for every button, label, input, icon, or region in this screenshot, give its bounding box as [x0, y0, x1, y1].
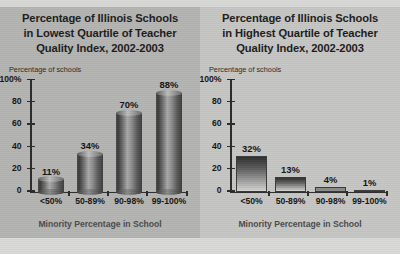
bar-right-lt50[interactable]: [236, 156, 267, 192]
chart-title-left-line3: Quality Index, 2002-2003: [3, 41, 197, 56]
y-tick-label-60-left: 60: [12, 118, 22, 128]
bar-value-left-90-98: 70%: [120, 99, 139, 110]
plot-area-left: 100% 80 60 40 20 0: [30, 79, 188, 193]
y-tick-label-80-left: 80: [12, 96, 22, 106]
bar-right-50-89[interactable]: [275, 177, 306, 192]
bar-slot-left-2[interactable]: 34% 50-89%: [77, 154, 103, 192]
bar-slot-right-4[interactable]: 1% 99-100%: [354, 190, 385, 191]
bar-left-90-98[interactable]: [116, 113, 142, 191]
bar-slot-right-2[interactable]: 13% 50-89%: [275, 177, 306, 192]
plot-area-right: 100% 80 60 40 20 0: [230, 79, 388, 193]
chart-title-left-line2: in Lowest Quartile of Teacher: [3, 26, 197, 41]
y-tick-label-20-right: 20: [212, 163, 222, 173]
bar-right-99-100[interactable]: [354, 190, 385, 192]
x-cat-label-left-99-100: 99-100%: [152, 196, 186, 206]
bar-left-99-100[interactable]: [156, 93, 182, 192]
bar-slot-left-4[interactable]: 88% 99-100%: [156, 93, 182, 192]
bar-slot-left-1[interactable]: 11% <50%: [38, 179, 64, 191]
x-cat-label-left-lt50: <50%: [40, 196, 62, 206]
y-tick-label-40-left: 40: [12, 141, 22, 151]
x-cat-label-left-90-98: 90-98%: [114, 196, 144, 206]
bar-left-50-89[interactable]: [77, 154, 103, 192]
bar-slot-right-3[interactable]: 4% 90-98%: [315, 187, 346, 192]
y-tick-label-40-right: 40: [212, 141, 222, 151]
y-tick-label-60-right: 60: [212, 118, 222, 128]
bar-value-right-99-100: 1%: [363, 177, 377, 188]
scan-strip-bottom: [0, 238, 400, 254]
x-cat-label-right-50-89: 50-89%: [276, 196, 306, 206]
bar-value-left-99-100: 88%: [160, 79, 179, 90]
y-tick-label-100-left: 100%: [0, 74, 22, 84]
chart-title-left: Percentage of Illinois Schools in Lowest…: [3, 11, 197, 56]
x-cat-label-right-lt50: <50%: [240, 196, 262, 206]
bar-right-90-98[interactable]: [315, 187, 346, 192]
chart-panel-highest-quartile: Percentage of Illinois Schools in Highes…: [200, 7, 400, 238]
x-cat-label-right-99-100: 99-100%: [352, 196, 386, 206]
chart-title-left-line1: Percentage of Illinois Schools: [3, 11, 197, 26]
bar-value-left-lt50: 11%: [42, 166, 60, 177]
bar-series-right: 32% <50% 13% 50-89% 4% 90-98% 1% 99-100%: [230, 79, 388, 193]
x-axis-title-right: Minority Percentage in School: [200, 219, 400, 229]
bar-series-left: 11% <50% 34% 50-89% 70% 90-98% 88% 99-10: [30, 79, 188, 193]
chart-panel-lowest-quartile: Percentage of Illinois Schools in Lowest…: [0, 7, 200, 238]
y-tick-label-20-left: 20: [12, 163, 22, 173]
bar-value-right-lt50: 32%: [242, 143, 261, 154]
x-axis-title-left: Minority Percentage in School: [0, 219, 200, 229]
scan-strip-top: [0, 0, 400, 7]
y-tick-label-0-right: 0: [217, 185, 222, 195]
chart-title-right-line2: in Highest Quartile of Teacher: [203, 26, 397, 41]
chart-title-right-line1: Percentage of Illinois Schools: [203, 11, 397, 26]
figure-canvas: Percentage of Illinois Schools in Lowest…: [0, 0, 400, 254]
x-cat-label-right-90-98: 90-98%: [316, 196, 346, 206]
chart-title-right-line3: Quality Index, 2002-2003: [203, 41, 397, 56]
y-tick-label-0-left: 0: [17, 185, 22, 195]
x-cat-label-left-50-89: 50-89%: [75, 196, 105, 206]
bar-value-right-50-89: 13%: [281, 164, 300, 175]
bar-slot-left-3[interactable]: 70% 90-98%: [116, 113, 142, 191]
chart-title-right: Percentage of Illinois Schools in Highes…: [203, 11, 397, 56]
bar-value-right-90-98: 4%: [324, 174, 338, 185]
y-tick-label-100-right: 100%: [200, 74, 222, 84]
bar-value-left-50-89: 34%: [81, 140, 100, 151]
bar-slot-right-1[interactable]: 32% <50%: [236, 156, 267, 192]
bar-left-lt50[interactable]: [38, 179, 64, 191]
y-tick-label-80-right: 80: [212, 96, 222, 106]
